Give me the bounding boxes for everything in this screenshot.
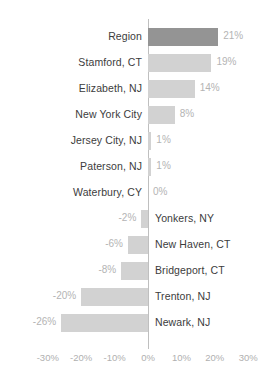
category-label: Trenton, NJ [155, 290, 280, 302]
x-axis-tick-label: -30% [37, 352, 59, 363]
category-label: Stamford, CT [0, 56, 142, 68]
bar-row: New Haven, CT-6% [0, 232, 280, 258]
x-axis-tick-label: 20% [205, 352, 224, 363]
value-label: 21% [223, 30, 280, 41]
bar-row: Waterbury, CY0% [0, 180, 280, 206]
value-label: 19% [216, 56, 276, 67]
category-label: Bridgeport, CT [155, 264, 280, 276]
category-label: Jersey City, NJ [0, 134, 142, 146]
bar [148, 132, 151, 150]
bar [148, 80, 195, 98]
value-label: -6% [0, 238, 123, 249]
bar [148, 158, 151, 176]
bar [81, 288, 148, 306]
x-axis: -30%-20%-10%0%10%20%30% [0, 352, 280, 368]
value-label: 0% [153, 186, 213, 197]
bar-row: Paterson, NJ1% [0, 154, 280, 180]
bar [61, 314, 148, 332]
category-label: Newark, NJ [155, 316, 280, 328]
bar [148, 54, 211, 72]
x-axis-tick-label: 0% [141, 352, 155, 363]
x-axis-tick-label: -10% [104, 352, 126, 363]
bar [121, 262, 148, 280]
plot-area: Region21%Stamford, CT19%Elizabeth, NJ14%… [0, 19, 280, 349]
bar [141, 210, 148, 228]
x-axis-tick-label: 10% [172, 352, 191, 363]
bar-row: Stamford, CT19% [0, 50, 280, 76]
bar [148, 106, 175, 124]
bar-row: Bridgeport, CT-8% [0, 258, 280, 284]
value-label: -20% [0, 290, 76, 301]
bar-row: Region21% [0, 24, 280, 50]
value-label: 1% [156, 134, 216, 145]
diverging-bar-chart: Region21%Stamford, CT19%Elizabeth, NJ14%… [0, 0, 280, 386]
value-label: 1% [156, 160, 216, 171]
x-axis-tick-label: -20% [70, 352, 92, 363]
category-label: Region [0, 30, 142, 42]
value-label: -26% [0, 316, 56, 327]
category-label: Yonkers, NY [155, 212, 280, 224]
value-label: -8% [0, 264, 116, 275]
x-axis-tick-label: 30% [239, 352, 258, 363]
value-label: 14% [200, 82, 260, 93]
value-label: 8% [180, 108, 240, 119]
value-label: -2% [0, 212, 136, 223]
category-label: Waterbury, CY [0, 186, 142, 198]
bar [148, 28, 218, 46]
bar-row: Elizabeth, NJ14% [0, 76, 280, 102]
category-label: Paterson, NJ [0, 160, 142, 172]
bar-row: New York City8% [0, 102, 280, 128]
bar-row: Yonkers, NY-2% [0, 206, 280, 232]
bar [128, 236, 148, 254]
bar-row: Trenton, NJ-20% [0, 284, 280, 310]
bar-row: Newark, NJ-26% [0, 310, 280, 336]
category-label: New York City [0, 108, 142, 120]
category-label: New Haven, CT [155, 238, 280, 250]
bar-row: Jersey City, NJ1% [0, 128, 280, 154]
category-label: Elizabeth, NJ [0, 82, 142, 94]
